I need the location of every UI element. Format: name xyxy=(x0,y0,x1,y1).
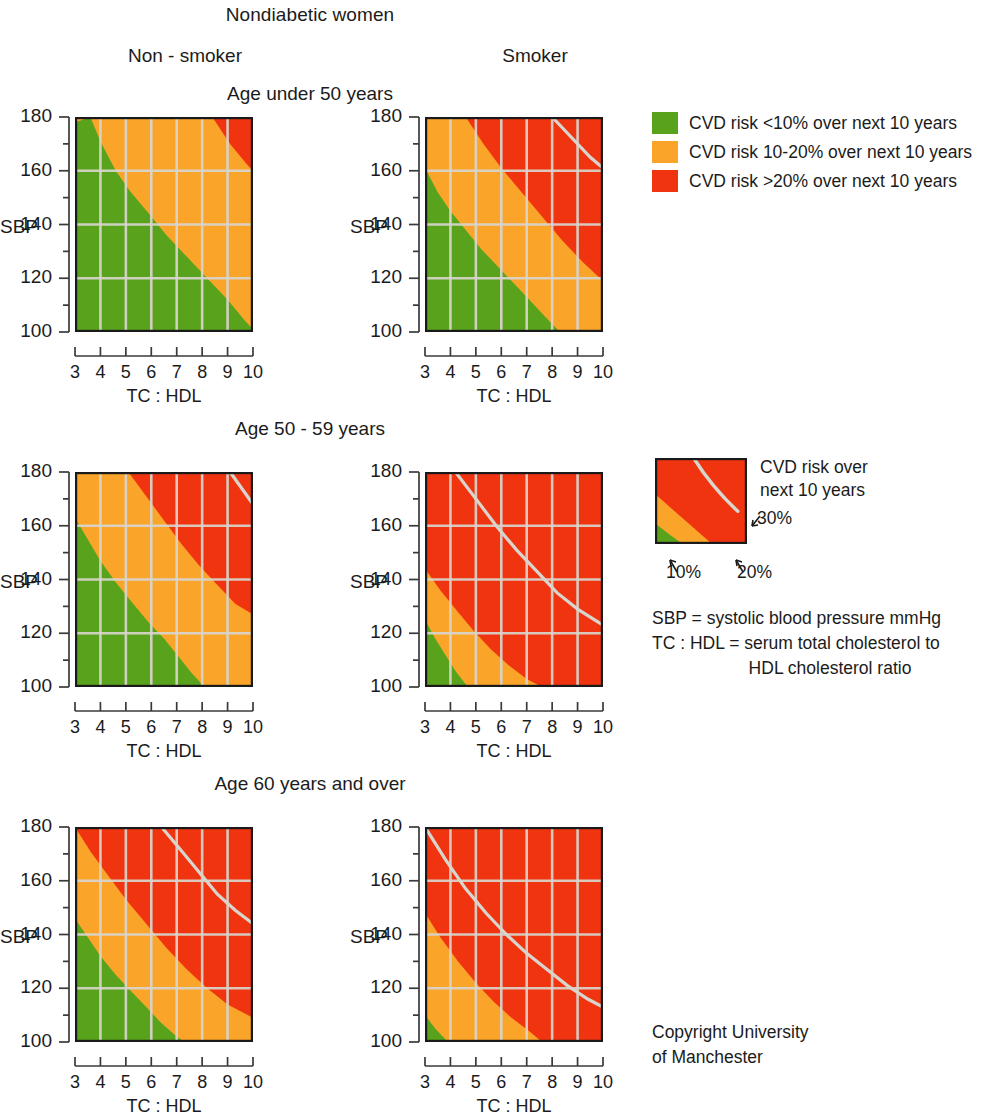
x-axis-title: TC : HDL xyxy=(74,386,254,407)
row-header-under50: Age under 50 years xyxy=(0,83,620,105)
y-tick-label: 140 xyxy=(358,569,402,588)
x-tick-label: 5 xyxy=(466,362,486,383)
x-tick-label: 9 xyxy=(568,717,588,738)
row-header-age60plus: Age 60 years and over xyxy=(0,773,620,795)
copyright-notice: Copyright University of Manchester xyxy=(652,1020,809,1070)
risk-surface xyxy=(425,117,603,332)
row-header-age50-59: Age 50 - 59 years xyxy=(0,418,620,440)
y-tick-label: 120 xyxy=(358,267,402,286)
risk-key-notes: SBP = systolic blood pressure mmHg TC : … xyxy=(652,606,982,681)
y-tick-label: 100 xyxy=(8,321,52,340)
risk-panel-age50_59-nonsmoker: SBP180160140120100345678910TC : HDL xyxy=(0,465,300,755)
x-tick-label: 7 xyxy=(167,362,187,383)
legend-swatch-moderate xyxy=(652,141,678,163)
legend-swatch-high xyxy=(652,170,678,192)
x-axis-title: TC : HDL xyxy=(74,741,254,762)
x-tick-label: 9 xyxy=(218,717,238,738)
risk-panel-age60plus-smoker: SBP180160140120100345678910TC : HDL xyxy=(350,820,650,1110)
x-tick-label: 8 xyxy=(542,1072,562,1093)
risk-panel-under50-nonsmoker: SBP180160140120100345678910TC : HDL xyxy=(0,110,300,400)
x-tick-label: 3 xyxy=(415,717,435,738)
x-tick-label: 9 xyxy=(568,362,588,383)
note-sbp: SBP = systolic blood pressure mmHg xyxy=(652,606,982,631)
x-tick-label: 6 xyxy=(141,1072,161,1093)
column-header-nonsmoker: Non - smoker xyxy=(70,45,300,67)
risk-key-pointers xyxy=(648,490,778,580)
x-tick-label: 9 xyxy=(218,362,238,383)
y-tick-label: 120 xyxy=(358,622,402,641)
legend-label-moderate: CVD risk 10-20% over next 10 years xyxy=(689,142,972,163)
x-axis-title: TC : HDL xyxy=(74,1096,254,1116)
x-axis-title: TC : HDL xyxy=(424,741,604,762)
y-tick-label: 120 xyxy=(8,267,52,286)
y-tick-label: 160 xyxy=(358,160,402,179)
x-tick-label: 7 xyxy=(167,1072,187,1093)
x-tick-label: 8 xyxy=(542,362,562,383)
x-tick-label: 6 xyxy=(141,362,161,383)
y-tick-label: 180 xyxy=(8,816,52,835)
x-tick-label: 8 xyxy=(192,1072,212,1093)
y-tick-label: 100 xyxy=(8,676,52,695)
x-tick-label: 7 xyxy=(167,717,187,738)
x-tick-label: 7 xyxy=(517,1072,537,1093)
x-tick-label: 4 xyxy=(440,717,460,738)
y-tick-label: 100 xyxy=(358,676,402,695)
x-tick-label: 10 xyxy=(243,1072,263,1093)
y-tick-label: 160 xyxy=(358,515,402,534)
x-axis-title: TC : HDL xyxy=(424,1096,604,1116)
y-tick-label: 140 xyxy=(8,924,52,943)
risk-panel-under50-smoker: SBP180160140120100345678910TC : HDL xyxy=(350,110,650,400)
risk-panel-age50_59-smoker: SBP180160140120100345678910TC : HDL xyxy=(350,465,650,755)
risk-key-caption-line1: CVD risk over xyxy=(760,456,868,479)
y-tick-label: 120 xyxy=(8,977,52,996)
x-tick-label: 3 xyxy=(65,362,85,383)
legend-item-low: CVD risk <10% over next 10 years xyxy=(652,112,972,134)
copyright-line1: Copyright University xyxy=(652,1020,809,1045)
x-tick-label: 3 xyxy=(65,1072,85,1093)
x-tick-label: 8 xyxy=(542,717,562,738)
y-tick-label: 100 xyxy=(358,321,402,340)
x-tick-label: 5 xyxy=(116,1072,136,1093)
x-tick-label: 5 xyxy=(466,717,486,738)
x-axis-title: TC : HDL xyxy=(424,386,604,407)
risk-surface xyxy=(75,472,253,687)
y-tick-label: 160 xyxy=(8,870,52,889)
legend-item-high: CVD risk >20% over next 10 years xyxy=(652,170,972,192)
risk-legend: CVD risk <10% over next 10 years CVD ris… xyxy=(652,112,972,199)
x-tick-label: 8 xyxy=(192,717,212,738)
risk-surface xyxy=(425,472,603,687)
copyright-line2: of Manchester xyxy=(652,1045,809,1070)
y-tick-label: 180 xyxy=(8,106,52,125)
x-tick-label: 9 xyxy=(218,1072,238,1093)
x-tick-label: 6 xyxy=(491,717,511,738)
x-tick-label: 7 xyxy=(517,362,537,383)
x-tick-label: 6 xyxy=(491,1072,511,1093)
x-tick-label: 3 xyxy=(415,1072,435,1093)
legend-label-high: CVD risk >20% over next 10 years xyxy=(689,171,957,192)
y-tick-label: 100 xyxy=(8,1031,52,1050)
x-tick-label: 3 xyxy=(415,362,435,383)
x-tick-label: 10 xyxy=(243,362,263,383)
y-tick-label: 140 xyxy=(8,214,52,233)
x-tick-label: 10 xyxy=(243,717,263,738)
x-tick-label: 5 xyxy=(116,362,136,383)
x-tick-label: 7 xyxy=(517,717,537,738)
y-tick-label: 180 xyxy=(358,106,402,125)
y-tick-label: 160 xyxy=(358,870,402,889)
y-tick-label: 140 xyxy=(8,569,52,588)
legend-label-low: CVD risk <10% over next 10 years xyxy=(689,113,957,134)
risk-surface xyxy=(75,827,253,1042)
y-tick-label: 180 xyxy=(358,816,402,835)
y-tick-label: 100 xyxy=(358,1031,402,1050)
note-tchdl: TC : HDL = serum total cholesterol to xyxy=(652,631,982,656)
risk-surface xyxy=(75,117,253,332)
x-tick-label: 3 xyxy=(65,717,85,738)
y-tick-label: 180 xyxy=(358,461,402,480)
y-tick-label: 140 xyxy=(358,214,402,233)
x-tick-label: 5 xyxy=(466,1072,486,1093)
y-tick-label: 120 xyxy=(8,622,52,641)
y-tick-label: 160 xyxy=(8,515,52,534)
risk-surface xyxy=(425,827,603,1042)
note-tchdl-cont: HDL cholesterol ratio xyxy=(652,656,982,681)
x-tick-label: 4 xyxy=(440,362,460,383)
